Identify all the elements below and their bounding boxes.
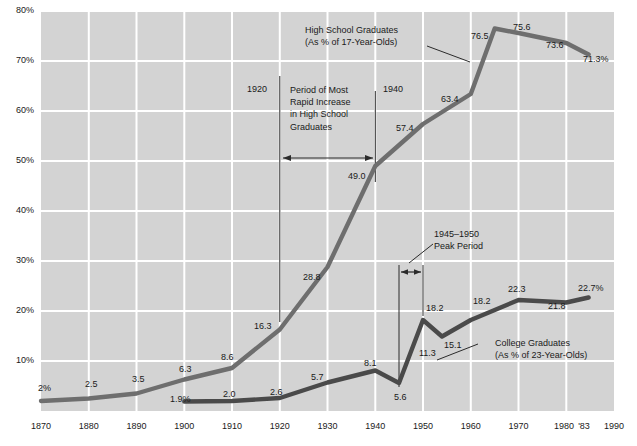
data-label-col-223: 22.3 xyxy=(508,284,526,294)
data-label-hs-736: 73.6 xyxy=(546,40,564,50)
legend-high-school-line1: High School Graduates xyxy=(305,24,398,36)
x-axis-label-1910: 1910 xyxy=(212,421,252,431)
data-label-hs-574: 57.4 xyxy=(396,123,414,133)
legend-college-line1: College Graduates xyxy=(495,337,587,349)
y-axis-label-10: 10% xyxy=(0,355,34,365)
x-axis-label-1960: 1960 xyxy=(451,421,491,431)
y-axis-label-80: 80% xyxy=(0,5,34,15)
data-label-col-182b: 18.2 xyxy=(473,296,491,306)
y-axis-label-70: 70% xyxy=(0,55,34,65)
x-axis-label-1950: 1950 xyxy=(403,421,443,431)
y-axis-label-40: 40% xyxy=(0,205,34,215)
data-label-hs-163: 16.3 xyxy=(254,321,272,331)
x-axis-label-1880: 1880 xyxy=(69,421,109,431)
annotation-rapid-increase-line1: Period of Most xyxy=(290,84,351,96)
annotation-rapid-increase: Period of Most Rapid Increase in High Sc… xyxy=(290,84,351,133)
y-axis-label-20: 20% xyxy=(0,305,34,315)
x-axis-label-1890: 1890 xyxy=(117,421,157,431)
y-axis-label-50: 50% xyxy=(0,155,34,165)
data-label-hs-634: 63.4 xyxy=(441,94,459,104)
annotation-peak-period-line1: 1945–1950 xyxy=(434,228,483,240)
annotation-peak-period: 1945–1950 Peak Period xyxy=(434,228,483,252)
annotation-rapid-increase-line3: in High School xyxy=(290,108,351,120)
data-label-col-182a: 18.2 xyxy=(426,303,444,313)
legend-high-school-graduates: High School Graduates (As % of 17-Year-O… xyxy=(305,24,398,48)
data-label-hs-713: 71.3% xyxy=(583,54,609,64)
data-label-col-57: 5.7 xyxy=(311,372,324,382)
legend-college-graduates: College Graduates (As % of 23-Year-Olds) xyxy=(495,337,587,361)
data-label-col-56: 5.6 xyxy=(394,392,407,402)
data-label-col-151: 15.1 xyxy=(444,340,462,350)
data-label-col-20: 2.0 xyxy=(223,389,236,399)
data-label-col-26: 2.6 xyxy=(270,387,283,397)
data-label-col-19: 1.9% xyxy=(170,394,191,404)
legend-high-school-line2: (As % of 17-Year-Olds) xyxy=(305,36,398,48)
annotation-year-1920: 1920 xyxy=(247,84,267,94)
data-label-hs-25: 2.5 xyxy=(85,379,98,389)
x-axis-label-1920: 1920 xyxy=(260,421,300,431)
data-label-hs-86: 8.6 xyxy=(221,352,234,362)
data-label-hs-490: 49.0 xyxy=(348,171,366,181)
data-label-col-81: 8.1 xyxy=(364,358,377,368)
y-axis-label-30: 30% xyxy=(0,255,34,265)
data-label-col-218: 21.8 xyxy=(548,301,566,311)
data-label-hs-35: 3.5 xyxy=(132,374,145,384)
annotation-rapid-increase-line4: Graduates xyxy=(290,121,351,133)
x-axis-label-1900: 1900 xyxy=(164,421,204,431)
data-label-hs-63: 6.3 xyxy=(179,364,192,374)
annotation-rapid-increase-line2: Rapid Increase xyxy=(290,96,351,108)
data-label-hs-765: 76.5 xyxy=(471,31,489,41)
chart-container: 80% 70% 60% 50% 40% 30% 20% 10% 1870 188… xyxy=(0,0,637,446)
data-label-hs-756: 75.6 xyxy=(513,22,531,32)
annotation-year-1940: 1940 xyxy=(383,84,403,94)
data-label-col-113: 11.3 xyxy=(419,348,436,358)
data-label-hs-288: 28.8 xyxy=(303,272,321,282)
data-label-hs-2: 2% xyxy=(38,383,51,393)
y-axis-label-60: 60% xyxy=(0,105,34,115)
x-axis-label-1870: 1870 xyxy=(21,421,61,431)
x-axis-label-1930: 1930 xyxy=(308,421,348,431)
annotation-peak-period-line2: Peak Period xyxy=(434,240,483,252)
x-axis-label-1990: 1990 xyxy=(594,421,634,431)
x-axis-label-1940: 1940 xyxy=(355,421,395,431)
legend-college-line2: (As % of 23-Year-Olds) xyxy=(495,349,587,361)
x-axis-label-1970: 1970 xyxy=(499,421,539,431)
data-label-col-227: 22.7% xyxy=(578,283,604,293)
